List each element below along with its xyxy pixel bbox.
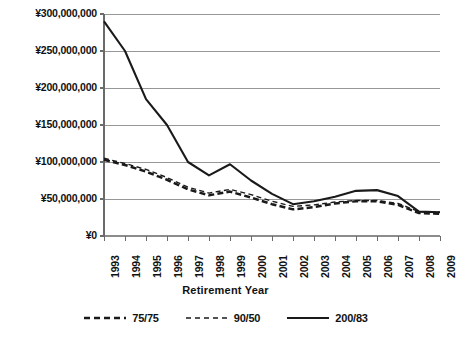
y-axis-tick-label: ¥300,000,000: [35, 7, 97, 19]
x-axis-tick-label: 2005: [361, 255, 373, 278]
legend-swatch-0: [83, 313, 127, 323]
x-axis-tick-label: 2007: [403, 255, 415, 278]
legend-label-0: 75/75: [132, 312, 159, 324]
y-axis-tick-label: ¥100,000,000: [35, 155, 97, 167]
x-axis-tick-label: 1998: [214, 255, 226, 278]
x-axis-tick-label: 2009: [445, 255, 457, 278]
x-axis-tick-label: 2001: [277, 255, 289, 278]
legend-item-0: 75/75: [83, 312, 159, 324]
legend-label-2: 200/83: [335, 312, 367, 324]
data-series-group: [104, 21, 440, 213]
legend-label-1: 90/50: [234, 312, 261, 324]
x-axis-tick-label: 2002: [298, 255, 310, 278]
axis-lines: [100, 14, 104, 236]
series-line-2: [104, 21, 440, 212]
legend-item-1: 90/50: [185, 312, 261, 324]
chart-legend: 75/75 90/50 200/83: [0, 312, 451, 324]
series-line-0: [104, 160, 440, 214]
x-axis-tick-label: 1999: [235, 255, 247, 278]
x-axis-tick-label: 1993: [109, 255, 121, 278]
y-axis-tick-label: ¥50,000,000: [41, 192, 97, 204]
x-axis-tick-label: 1995: [151, 255, 163, 278]
x-axis-tick-label: 2006: [382, 255, 394, 278]
x-axis-tick-label: 1996: [172, 255, 184, 278]
x-axis-tick-label: 2000: [256, 255, 268, 278]
y-axis-tick-label: ¥0: [86, 229, 97, 241]
x-axis-tick-label: 2003: [319, 255, 331, 278]
y-axis-tick-label: ¥150,000,000: [35, 118, 97, 130]
y-axis-tick-label: ¥200,000,000: [35, 81, 97, 93]
x-axis-tick-label: 2004: [340, 255, 352, 278]
legend-swatch-1: [185, 313, 229, 323]
x-axis-title: Retirement Year: [0, 284, 451, 296]
x-axis-tick-marks: [104, 236, 440, 241]
x-axis-tick-label: 1997: [193, 255, 205, 278]
y-axis-tick-label: ¥250,000,000: [35, 44, 97, 56]
x-axis-tick-label: 2008: [424, 255, 436, 278]
legend-item-2: 200/83: [286, 312, 367, 324]
legend-swatch-2: [286, 313, 330, 323]
x-axis-tick-label: 1994: [130, 255, 142, 278]
